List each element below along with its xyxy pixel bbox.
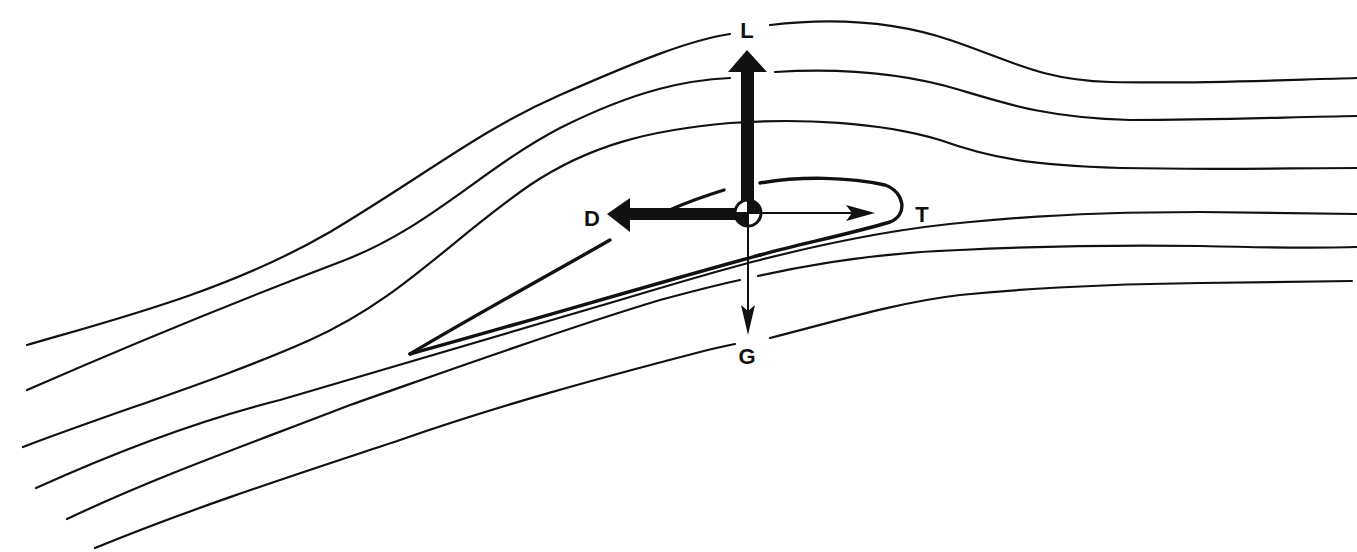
center-of-gravity-icon: [735, 200, 761, 226]
airfoil: [410, 178, 902, 354]
thrust-arrow: [760, 205, 875, 221]
lift-arrow: [728, 50, 767, 202]
drag-label: D: [584, 206, 600, 231]
thrust-label: T: [915, 202, 929, 227]
airfoil-upper-surface-aft: [410, 240, 610, 354]
streamline-4: [36, 212, 1357, 488]
gravity-label: G: [738, 344, 755, 369]
lift-label: L: [740, 18, 753, 43]
streamline-6: [95, 281, 1352, 548]
drag-arrow: [607, 198, 742, 232]
streamline-5: [67, 246, 1357, 519]
airfoil-upper-surface-mid: [672, 190, 724, 209]
airfoil-lower-surface: [410, 255, 760, 354]
streamlines: [23, 21, 1357, 548]
airfoil-forces-diagram: L D T G: [0, 0, 1357, 552]
gravity-arrow: [741, 226, 755, 335]
streamline-2: [27, 71, 1357, 390]
streamline-1: [27, 21, 1357, 345]
